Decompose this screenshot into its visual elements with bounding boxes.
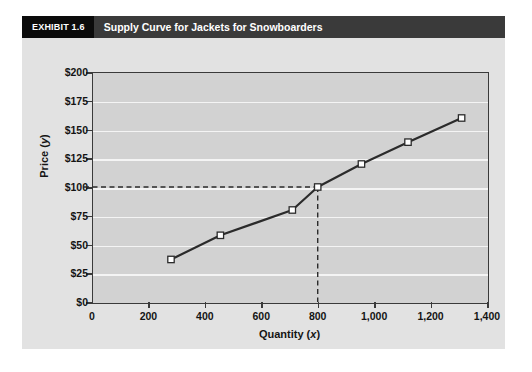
supply-curve-plot	[22, 38, 505, 349]
data-point-marker	[168, 256, 174, 262]
exhibit-header: EXHIBIT 1.6 Supply Curve for Jackets for…	[22, 16, 505, 38]
exhibit-card: EXHIBIT 1.6 Supply Curve for Jackets for…	[22, 16, 505, 349]
exhibit-title: Supply Curve for Jackets for Snowboarder…	[94, 16, 505, 38]
data-point-marker	[315, 184, 321, 190]
data-point-marker	[358, 161, 364, 167]
chart-figure: $0$25$50$75$100$125$150$175$200 Price (y…	[22, 38, 505, 349]
data-point-marker	[405, 139, 411, 145]
data-point-marker	[217, 232, 223, 238]
data-point-marker	[458, 115, 464, 121]
data-point-marker	[289, 207, 295, 213]
exhibit-number-label: EXHIBIT 1.6	[22, 16, 94, 38]
